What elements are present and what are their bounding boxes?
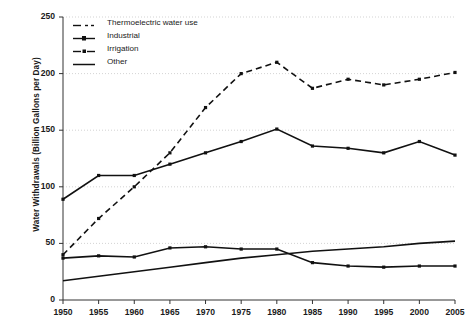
series-marker	[418, 264, 421, 267]
series-marker	[382, 83, 385, 86]
series-marker	[418, 78, 421, 81]
series-marker	[97, 217, 100, 220]
series-line	[63, 241, 455, 281]
series-marker	[240, 72, 243, 75]
series-marker	[61, 257, 64, 260]
solid-marker-line-key	[73, 43, 101, 54]
series-marker	[204, 106, 207, 109]
series-marker	[97, 254, 100, 257]
dashed-line-key	[73, 17, 101, 28]
series-marker	[240, 140, 243, 143]
series-marker	[133, 255, 136, 258]
legend-item: Industrial	[73, 29, 198, 42]
chart-legend: Thermoelectric water use Industrial Irri…	[73, 16, 198, 68]
series-marker	[240, 247, 243, 250]
series-marker	[133, 174, 136, 177]
series-marker	[168, 246, 171, 249]
series-marker	[275, 247, 278, 250]
series-marker	[453, 264, 456, 267]
legend-item: Irrigation	[73, 42, 198, 55]
series-marker	[275, 61, 278, 64]
series-marker	[453, 71, 456, 74]
series-marker	[382, 266, 385, 269]
legend-label: Thermoelectric water use	[107, 18, 198, 27]
series-marker	[61, 198, 64, 201]
series-marker	[97, 174, 100, 177]
series-marker	[133, 185, 136, 188]
series-marker	[382, 151, 385, 154]
series-line	[63, 62, 455, 254]
plot-area	[0, 0, 468, 336]
series-marker	[311, 261, 314, 264]
series-marker	[346, 78, 349, 81]
solid-line-key	[73, 56, 101, 67]
series-marker	[275, 127, 278, 130]
series-marker	[204, 151, 207, 154]
series-marker	[168, 151, 171, 154]
legend-item: Thermoelectric water use	[73, 16, 198, 29]
legend-item: Other	[73, 55, 198, 68]
solid-marker-line-key	[73, 30, 101, 41]
series-marker	[61, 253, 64, 256]
legend-label: Irrigation	[107, 44, 139, 53]
legend-label: Other	[107, 57, 127, 66]
series-marker	[204, 245, 207, 248]
series-marker	[453, 154, 456, 157]
series-marker	[346, 264, 349, 267]
series-marker	[346, 147, 349, 150]
series-marker	[168, 163, 171, 166]
series-marker	[418, 140, 421, 143]
series-line	[63, 129, 455, 199]
legend-label: Industrial	[107, 31, 140, 40]
series-marker	[311, 87, 314, 90]
data-series-layer	[61, 61, 456, 281]
x-axis-tick-marks	[63, 300, 455, 304]
series-marker	[311, 144, 314, 147]
line-chart: Water Withdrawals (Billion Gallons per D…	[0, 0, 468, 336]
